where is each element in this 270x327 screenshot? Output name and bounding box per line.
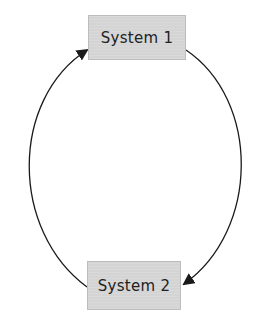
node-system-1-label: System 1 [101, 29, 174, 47]
node-system-1: System 1 [88, 15, 186, 60]
arrow-system2-to-system1 [29, 50, 87, 287]
arrow-system1-to-system2 [184, 50, 241, 284]
node-system-2: System 2 [87, 261, 181, 310]
node-system-2-label: System 2 [98, 277, 171, 295]
